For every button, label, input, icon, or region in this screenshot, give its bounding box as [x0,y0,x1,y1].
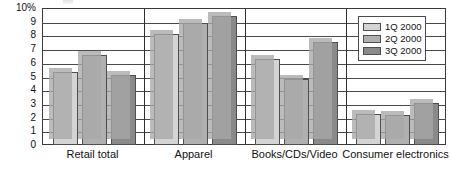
bar-chart: 10%9876543210 Retail totalApparelBooks/C… [0,0,451,173]
bar [212,16,237,145]
bar-shadow [179,19,202,139]
bar [82,55,107,145]
bar-shadow [208,12,231,139]
y-axis-tick-label: 9 [0,17,40,27]
bar [313,42,338,145]
bar [414,103,439,145]
x-axis: Retail totalApparelBooks/CDs/VideoConsum… [42,148,446,166]
bar-shadow [49,68,72,139]
bar-shadow [280,75,303,139]
legend-item-label: 1Q 2000 [385,22,421,31]
cropped-title-artifact [63,0,73,4]
y-axis-tick-label: 5 [0,72,40,82]
y-axis-tick-label: 10% [0,3,40,13]
x-axis-tick-label: Books/CDs/Video [251,148,337,160]
y-axis-tick-label: 4 [0,85,40,95]
y-axis-tick-label: 7 [0,44,40,54]
legend-swatch-icon [363,47,381,55]
legend-item: 1Q 2000 [363,21,421,32]
bar-shadow [251,55,274,139]
bar-shadow [78,51,101,139]
y-axis-tick-label: 3 [0,99,40,109]
bar-shadow [150,30,173,139]
x-axis-tick-label: Retail total [67,148,119,160]
bar [183,23,208,145]
bar [385,115,410,145]
bar [111,75,136,145]
legend-item-label: 2Q 2000 [385,34,421,43]
y-axis-tick-label: 2 [0,113,40,123]
y-axis-tick-label: 1 [0,126,40,136]
y-axis: 10%9876543210 [0,8,40,145]
bar-shadow [381,111,404,139]
legend-swatch-icon [363,35,381,43]
y-axis-tick-label: 0 [0,140,40,150]
y-axis-tick-label: 8 [0,30,40,40]
bar [154,34,179,145]
x-axis-tick-label: Apparel [175,148,213,160]
bar-shadow [107,71,130,139]
legend-item-label: 3Q 2000 [385,46,421,55]
x-axis-tick-label: Consumer electronics [342,148,448,160]
bar [284,79,309,145]
bar [255,59,280,145]
bar-shadow [410,99,433,139]
y-axis-tick-label: 6 [0,58,40,68]
bar [53,72,78,145]
bar-shadow [309,38,332,139]
legend-item: 3Q 2000 [363,45,421,56]
bar [356,114,381,146]
chart-legend: 1Q 2000 2Q 2000 3Q 2000 [358,16,426,61]
legend-item: 2Q 2000 [363,33,421,44]
bar-shadow [352,110,375,140]
legend-swatch-icon [363,23,381,31]
